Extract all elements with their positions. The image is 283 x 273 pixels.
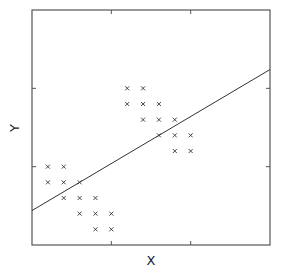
y-axis-label: Y (7, 124, 22, 133)
x-marker-icon (141, 86, 145, 90)
x-marker-icon (62, 165, 66, 169)
x-marker-icon (141, 102, 145, 106)
x-marker-icon (62, 196, 66, 200)
x-marker-icon (157, 118, 161, 122)
plot-frame (32, 10, 270, 245)
regression-line (32, 70, 270, 211)
x-marker-icon (125, 86, 129, 90)
x-marker-icon (125, 102, 129, 106)
x-marker-icon (157, 102, 161, 106)
x-marker-icon (46, 165, 50, 169)
x-marker-icon (62, 180, 66, 184)
x-marker-icon (93, 196, 97, 200)
x-marker-icon (93, 227, 97, 231)
x-marker-icon (189, 133, 193, 137)
x-marker-icon (46, 180, 50, 184)
x-marker-icon (189, 149, 193, 153)
x-axis-label: X (147, 253, 156, 268)
x-marker-icon (173, 133, 177, 137)
x-marker-icon (78, 212, 82, 216)
x-marker-icon (93, 212, 97, 216)
axis-ticks (32, 10, 270, 245)
x-marker-icon (109, 212, 113, 216)
x-marker-icon (141, 118, 145, 122)
x-marker-icon (109, 227, 113, 231)
x-marker-icon (78, 196, 82, 200)
scatter-chart: X Y (0, 0, 283, 273)
x-marker-icon (173, 149, 177, 153)
x-marker-icon (173, 118, 177, 122)
